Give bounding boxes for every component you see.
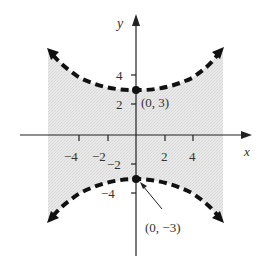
y-axis-arrow-icon (132, 14, 140, 26)
point-label-top: (0, 3) (141, 95, 169, 110)
x-tick-label: −4 (64, 149, 78, 164)
y-tick-label: −2 (107, 157, 121, 172)
x-tick-label: 4 (189, 149, 196, 164)
pointer-arrow-icon (140, 182, 147, 189)
point-label-bottom: (0, −3) (145, 220, 181, 235)
hyperbola-graph: −4 −2 2 4 4 2 −2 −4 y x (0, 3) (0, −3) (0, 0, 271, 268)
y-tick-label: 4 (116, 68, 123, 83)
y-axis-label: y (115, 16, 124, 31)
x-tick-label: 2 (161, 149, 168, 164)
vertex-point-top (132, 86, 140, 94)
x-tick-label: −2 (92, 149, 106, 164)
y-tick-label: −4 (101, 186, 115, 201)
x-axis-arrow-icon (241, 131, 252, 139)
pointer-line (143, 186, 162, 209)
vertex-point-bottom (132, 175, 140, 183)
y-tick-label: 2 (116, 97, 123, 112)
x-axis-label: x (243, 144, 250, 159)
